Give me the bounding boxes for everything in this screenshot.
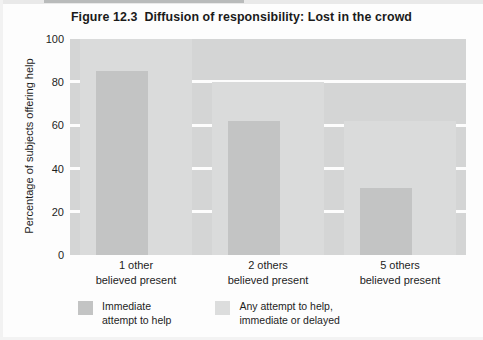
x-axis-category-labels: 1 other believed present 2 others believ… [70, 258, 466, 298]
y-axis-tick-labels: 100 80 60 40 20 0 [34, 0, 64, 340]
bar-immediate-1-other [96, 71, 148, 255]
x-label-1-other-line2: believed present [70, 273, 202, 288]
scan-edge-strip [0, 0, 483, 4]
plot-area [70, 39, 466, 255]
legend-label-immediate: Immediate attempt to help [102, 300, 171, 327]
x-label-1-other-line1: 1 other [70, 258, 202, 273]
bar-group-1-other [70, 39, 202, 255]
legend-label-any-attempt: Any attempt to help, immediate or delaye… [239, 300, 339, 327]
y-tick-60: 60 [34, 119, 64, 131]
legend-label-immediate-line2: attempt to help [102, 314, 171, 328]
y-tick-0: 0 [34, 249, 64, 261]
legend-swatch-any-attempt-icon [215, 301, 230, 315]
page-edge-left [0, 0, 3, 340]
legend-item-immediate: Immediate attempt to help [78, 300, 171, 327]
legend-label-any-attempt-line1: Any attempt to help, [239, 300, 339, 314]
x-label-5-others-line2: believed present [334, 273, 466, 288]
bar-group-5-others [334, 39, 466, 255]
x-label-5-others: 5 others believed present [334, 258, 466, 298]
x-label-2-others: 2 others believed present [202, 258, 334, 298]
y-tick-100: 100 [34, 33, 64, 45]
figure-container: Figure 12.3Diffusion of responsibility: … [0, 0, 483, 340]
legend-item-any-attempt: Any attempt to help, immediate or delaye… [215, 300, 339, 327]
y-tick-20: 20 [34, 206, 64, 218]
chart-legend: Immediate attempt to help Any attempt to… [78, 300, 340, 327]
legend-label-any-attempt-line2: immediate or delayed [239, 314, 339, 328]
scan-edge-dark [44, 0, 244, 3]
legend-swatch-immediate-icon [78, 301, 93, 315]
figure-number: Figure 12.3 [71, 10, 138, 24]
x-label-2-others-line1: 2 others [202, 258, 334, 273]
x-label-5-others-line1: 5 others [334, 258, 466, 273]
bar-group-2-others [202, 39, 334, 255]
figure-title-text: Diffusion of responsibility: Lost in the… [144, 10, 412, 24]
legend-label-immediate-line1: Immediate [102, 300, 171, 314]
x-label-1-other: 1 other believed present [70, 258, 202, 298]
bar-groups [70, 39, 466, 255]
bar-immediate-2-others [228, 121, 280, 255]
y-tick-40: 40 [34, 163, 64, 175]
x-label-2-others-line2: believed present [202, 273, 334, 288]
y-tick-80: 80 [34, 76, 64, 88]
bar-immediate-5-others [360, 188, 412, 255]
figure-title: Figure 12.3Diffusion of responsibility: … [0, 10, 483, 24]
